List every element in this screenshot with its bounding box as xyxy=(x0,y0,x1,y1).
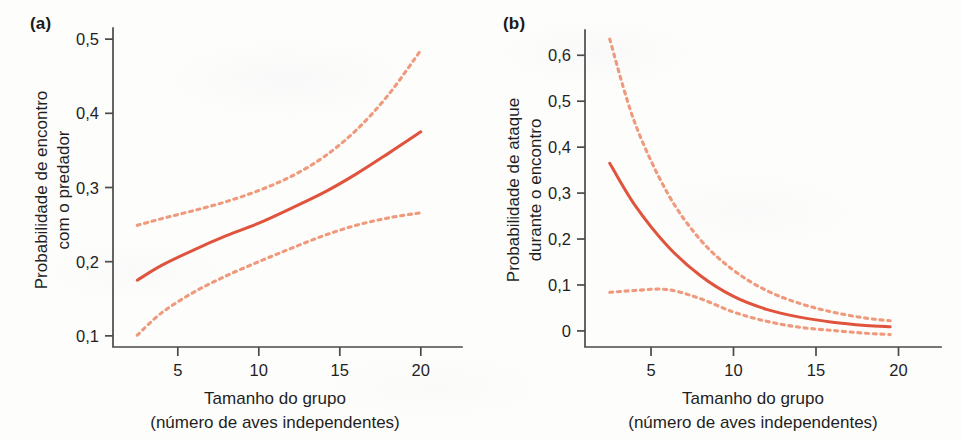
y-axis-title-b-line-1: durante o encontro xyxy=(526,119,545,262)
panel-b: (b) 00,10,20,30,40,50,65101520Probabilid… xyxy=(481,0,962,439)
y-tick-label-b-3: 0,3 xyxy=(548,184,571,202)
series-b-1 xyxy=(610,39,891,321)
axis-spines xyxy=(585,30,941,347)
x-axis-title-a-line-0: Tamanho do grupo xyxy=(204,389,346,408)
panel-a: (a) 0,10,20,30,40,55101520Probabilidade … xyxy=(0,0,481,439)
y-tick-label-b-0: 0 xyxy=(562,322,571,340)
series-a-2 xyxy=(137,213,421,335)
x-axis-title-a-line-1: (número de aves independentes) xyxy=(150,413,400,432)
series-b-2 xyxy=(610,289,891,335)
x-tick-label-b-3: 20 xyxy=(889,361,907,379)
series-b-0 xyxy=(610,163,891,327)
x-tick-label-a-0: 5 xyxy=(173,361,182,379)
x-tick-label-a-1: 10 xyxy=(250,361,268,379)
y-tick-label-b-5: 0,5 xyxy=(548,92,571,110)
y-tick-label-b-6: 0,6 xyxy=(548,46,571,64)
x-tick-label-b-0: 5 xyxy=(646,361,655,379)
panel-b-label: (b) xyxy=(503,14,525,34)
y-tick-label-b-4: 0,4 xyxy=(548,138,571,156)
y-tick-label-a-4: 0,5 xyxy=(76,30,99,48)
series-a-1 xyxy=(137,50,421,225)
y-axis-title-b-line-0: Probabilidade de ataque xyxy=(504,98,523,282)
figure-container: (a) 0,10,20,30,40,55101520Probabilidade … xyxy=(0,0,962,439)
y-axis-title-a-line-1: com o predador xyxy=(54,130,73,249)
y-tick-label-b-2: 0,2 xyxy=(548,230,571,248)
panel-a-plot: 0,10,20,30,40,55101520Probabilidade de e… xyxy=(0,0,481,439)
y-tick-label-b-1: 0,1 xyxy=(548,276,571,294)
panel-b-plot: 00,10,20,30,40,50,65101520Probabilidade … xyxy=(481,0,962,439)
axis-spines xyxy=(113,28,462,347)
series-a-0 xyxy=(137,132,421,280)
x-tick-label-b-2: 15 xyxy=(807,361,825,379)
y-tick-label-a-2: 0,3 xyxy=(76,179,99,197)
y-tick-label-a-0: 0,1 xyxy=(76,327,99,345)
x-axis-title-b-line-0: Tamanho do grupo xyxy=(682,389,824,408)
x-tick-label-a-2: 15 xyxy=(331,361,349,379)
y-axis-title-a-line-0: Probabilidade de encontro xyxy=(32,91,51,289)
x-tick-label-a-3: 20 xyxy=(412,361,430,379)
x-tick-label-b-1: 10 xyxy=(724,361,742,379)
y-tick-label-a-3: 0,4 xyxy=(76,104,99,122)
panel-a-label: (a) xyxy=(30,14,51,34)
y-tick-label-a-1: 0,2 xyxy=(76,253,99,271)
x-axis-title-b-line-1: (número de aves independentes) xyxy=(628,413,878,432)
